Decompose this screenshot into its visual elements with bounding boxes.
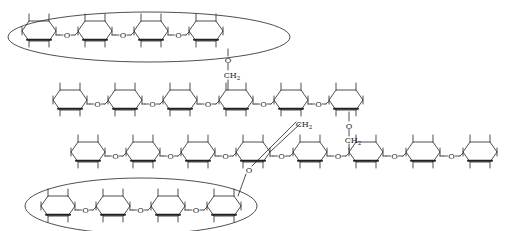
glycosidic-linkage: O xyxy=(327,152,349,161)
oxygen-label: O xyxy=(112,152,119,161)
glucose-ring xyxy=(329,83,363,116)
glycosidic-linkage: O xyxy=(112,31,134,40)
oxygen-label: O xyxy=(278,152,285,161)
glycosidic-linkage: O xyxy=(168,31,189,40)
oxygen-label: O xyxy=(120,31,127,40)
oxygen-label: O xyxy=(82,206,89,215)
glycosidic-linkage: O xyxy=(56,31,78,40)
glycosidic-linkage: O xyxy=(270,152,293,161)
oxygen-label: O xyxy=(94,100,101,109)
glycosidic-linkage: O xyxy=(308,100,329,109)
glucose-ring xyxy=(108,83,142,116)
glucose-ring xyxy=(293,135,327,168)
branch-chain4-to-chain3: OCH2 xyxy=(246,120,313,175)
glycosidic-linkage: O xyxy=(215,152,236,161)
glucose-ring xyxy=(126,135,160,168)
glycosidic-linkage: O xyxy=(87,100,108,109)
glucose-ring xyxy=(207,189,241,222)
glycosidic-linkage: O xyxy=(75,206,96,215)
chain-4-circled-bottom: OOO xyxy=(41,189,241,222)
glucose-ring xyxy=(219,83,253,116)
ellipse-top xyxy=(8,12,290,62)
glycosidic-linkage: O xyxy=(185,206,207,215)
glucose-ring xyxy=(151,189,185,222)
glucose-ring xyxy=(78,14,112,47)
ch2-label: CH2 xyxy=(345,136,362,146)
glucose-ring xyxy=(406,135,440,168)
oxygen-label: O xyxy=(205,100,212,109)
oxygen-label: O xyxy=(315,100,322,109)
ch2-label: CH2 xyxy=(224,71,241,81)
glycosidic-linkage: O xyxy=(142,100,163,109)
oxygen-label: O xyxy=(167,152,174,161)
glucose-ring xyxy=(463,135,497,168)
glycosidic-linkage: O xyxy=(253,100,274,109)
oxygen-label: O xyxy=(222,152,229,161)
glucose-ring xyxy=(134,14,168,47)
oxygen-label: O xyxy=(448,152,455,161)
glycosidic-linkage: O xyxy=(160,152,181,161)
oxygen-label: O xyxy=(246,166,253,175)
chain-2: OOOOO xyxy=(53,83,363,116)
glucose-ring xyxy=(41,189,75,222)
glucose-ring xyxy=(96,189,130,222)
glycosidic-linkage: O xyxy=(383,152,406,161)
oxygen-label: O xyxy=(137,206,144,215)
glucose-ring xyxy=(236,135,270,168)
oxygen-label: O xyxy=(391,152,398,161)
glycosidic-linkage: O xyxy=(130,206,151,215)
glucose-ring xyxy=(274,83,308,116)
oxygen-label: O xyxy=(335,152,342,161)
glucose-ring xyxy=(53,83,87,116)
oxygen-label: O xyxy=(260,100,267,109)
ellipse-bottom xyxy=(25,178,257,231)
oxygen-label: O xyxy=(64,31,71,40)
glucose-ring xyxy=(163,83,197,116)
oxygen-label: O xyxy=(149,100,156,109)
glucose-ring xyxy=(71,135,105,168)
polysaccharide-diagram: OOOOOOOOOOOOOOOOOOOCH2OCH2OCH2 xyxy=(0,0,516,231)
glucose-ring xyxy=(189,14,223,47)
diagram-canvas: OOOOOOOOOOOOOOOOOOOCH2OCH2OCH2 xyxy=(0,0,516,231)
glycosidic-linkage: O xyxy=(440,152,463,161)
branch-chain1-to-chain2: OCH2 xyxy=(224,56,241,81)
glucose-ring xyxy=(181,135,215,168)
branch-chain2-to-chain3: OCH2 xyxy=(345,122,362,146)
chain-3: OOOOOOO xyxy=(71,135,497,168)
oxygen-label: O xyxy=(175,31,182,40)
oxygen-label: O xyxy=(193,206,200,215)
ch2-label: CH2 xyxy=(296,120,313,130)
glycosidic-linkage: O xyxy=(197,100,219,109)
glycosidic-linkage: O xyxy=(105,152,126,161)
